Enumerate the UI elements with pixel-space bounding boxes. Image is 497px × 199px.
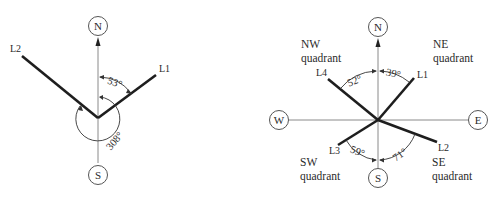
north-arrow-icon [376,38,381,47]
south-marker: S [89,166,108,185]
angle-label-52: 52° [346,73,364,89]
ne-quadrant-label: NE [433,38,448,50]
line-l3 [338,120,378,145]
line-l2 [378,120,437,142]
line-l3-label: L3 [329,145,340,156]
left-bearing-diagram: N S L2 L1 53° 308° [10,17,170,185]
nw-quadrant-label: NW [301,38,320,50]
angle-label-308: 308° [104,130,125,152]
sw-quadrant-label: SW [300,156,317,168]
west-label: W [274,114,285,126]
bearing-diagrams: N S L2 L1 53° 308° N [0,0,497,199]
north-marker: N [89,17,108,36]
angle-label-71: 71° [391,146,409,163]
east-label: E [475,114,482,126]
line-l2-label: L2 [438,142,449,153]
line-l1-label: L1 [159,63,170,74]
angle-label-53: 53° [106,75,124,90]
line-l1 [378,78,414,120]
line-l2 [22,56,98,118]
angle-label-39: 39° [385,66,402,80]
south-label: S [95,169,101,181]
right-quadrant-diagram: N S W E NW quadrant NE quadrant SW quadr… [270,18,488,188]
se-quadrant-label: SE [432,156,445,168]
line-l4-label: L4 [316,67,327,78]
north-label: N [374,21,382,33]
south-marker: S [369,169,388,188]
sw-quadrant-label-2: quadrant [300,170,341,183]
ne-quadrant-label-2: quadrant [433,52,474,65]
east-marker: E [469,111,488,130]
north-label: N [94,20,102,32]
north-marker: N [369,18,388,37]
line-l2-label: L2 [10,43,21,54]
west-marker: W [270,111,289,130]
north-arrow-icon [96,37,101,46]
nw-quadrant-label-2: quadrant [301,52,342,65]
line-l1-label: L1 [417,69,428,80]
south-label: S [375,172,381,184]
se-quadrant-label-2: quadrant [432,170,473,183]
